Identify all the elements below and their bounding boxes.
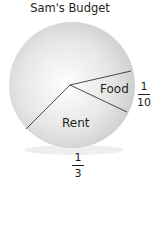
slice-label-rent: Rent	[62, 116, 90, 130]
fraction-bar	[72, 165, 84, 166]
fraction-food: 1 10	[136, 80, 152, 109]
fraction-numerator: 1	[75, 151, 82, 164]
fraction-denominator: 3	[75, 167, 82, 180]
slice-label-food: Food	[100, 82, 129, 96]
fraction-numerator: 1	[141, 80, 148, 93]
fraction-denominator: 10	[137, 96, 151, 109]
fraction-bar	[138, 94, 150, 95]
fraction-rent: 1 3	[70, 151, 86, 180]
